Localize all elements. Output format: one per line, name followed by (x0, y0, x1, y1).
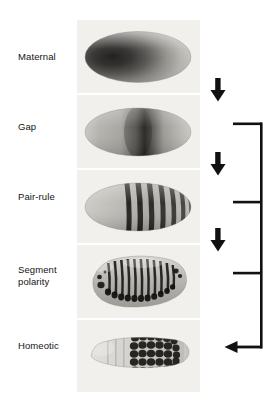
bracket-arm-pair-rule (233, 201, 262, 204)
arrow-bracket-to-homeotic-icon (225, 341, 263, 353)
homeotic-input-bracket-icon (225, 123, 263, 354)
bracket-arm-gap (233, 123, 262, 126)
segmentation-hierarchy-figure: Maternal Gap Pair-rule Segment polarity … (0, 0, 276, 397)
arrow-pair-rule-to-segment-polarity-icon (211, 228, 226, 252)
arrow-maternal-to-gap-icon (211, 78, 226, 102)
arrow-gap-to-pair-rule-icon (211, 152, 226, 176)
bracket-arm-segment-polarity (233, 272, 262, 275)
flow-arrows-and-bracket (0, 0, 276, 397)
